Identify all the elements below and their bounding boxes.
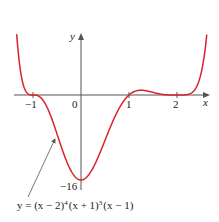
x-tick-label-2: 2 — [173, 98, 179, 110]
origin-label: 0 — [72, 98, 78, 110]
x-axis-label: x — [202, 96, 208, 108]
x-tick-label-1: 1 — [126, 98, 132, 110]
y-tick-label-neg16: −16 — [60, 180, 78, 192]
function-annotation: y = (x − 2)4(x + 1)3(x − 1) — [17, 199, 134, 212]
annotation-arrow — [28, 139, 55, 197]
annotation-part-1: y = (x − 2) — [17, 199, 65, 212]
y-axis-label: y — [69, 30, 75, 42]
annotation-exp-4: 4 — [64, 199, 68, 207]
x-tick-label-neg1: −1 — [25, 98, 37, 110]
annotation-part-2: (x + 1) — [69, 199, 99, 212]
y-axis-arrow-icon — [78, 33, 84, 40]
annotation-part-3: (x − 1) — [103, 199, 133, 212]
chart-canvas: y x 0 −1 1 2 −16 y = (x − 2)4(x + 1)3(x … — [0, 0, 219, 222]
annotation-exp-3: 3 — [99, 199, 103, 207]
